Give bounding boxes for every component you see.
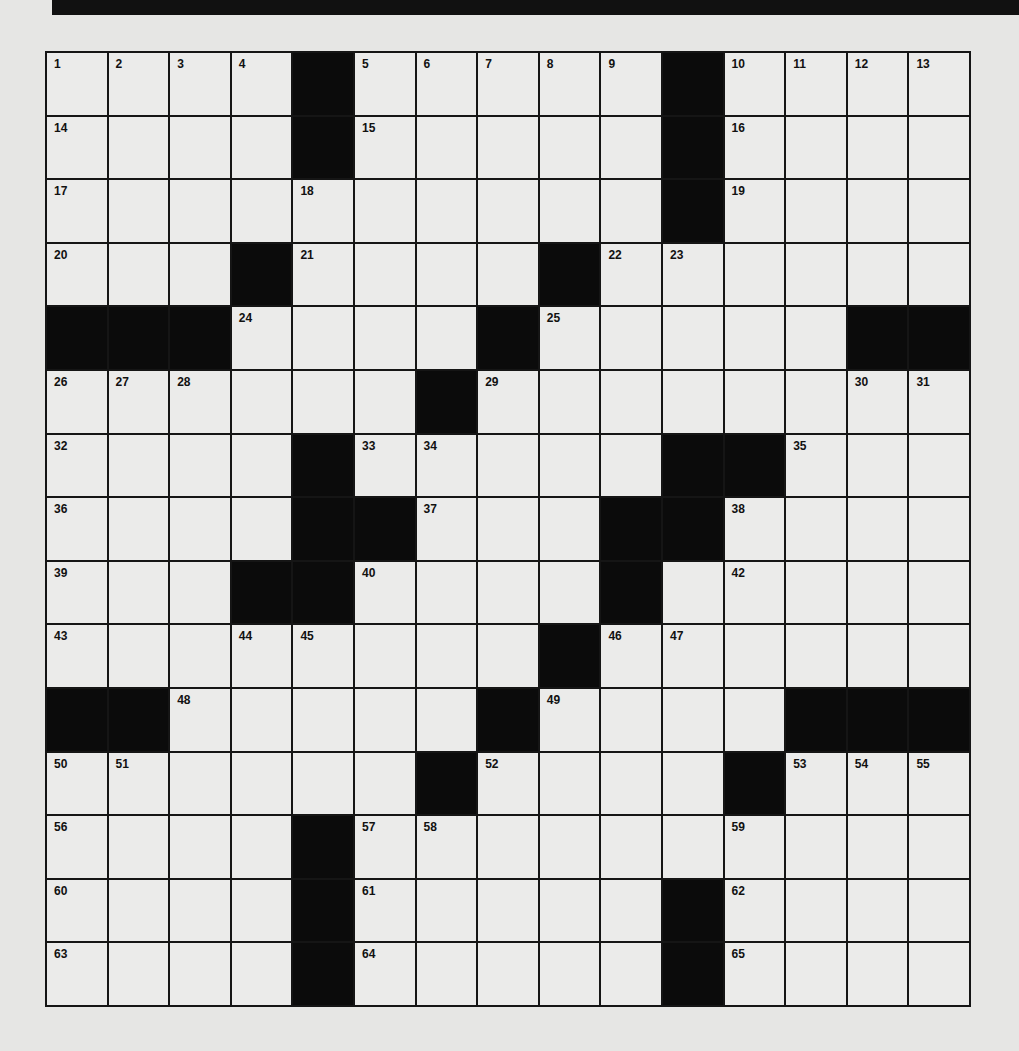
grid-cell[interactable] bbox=[170, 753, 230, 815]
grid-cell[interactable] bbox=[786, 498, 846, 560]
grid-cell[interactable] bbox=[293, 371, 353, 433]
grid-cell[interactable] bbox=[109, 117, 169, 179]
grid-cell[interactable] bbox=[848, 816, 908, 878]
grid-cell[interactable] bbox=[109, 435, 169, 497]
grid-cell[interactable] bbox=[478, 943, 538, 1005]
grid-cell[interactable] bbox=[417, 625, 477, 687]
grid-cell[interactable]: 1 bbox=[47, 53, 107, 115]
grid-cell[interactable] bbox=[786, 117, 846, 179]
grid-cell[interactable]: 34 bbox=[417, 435, 477, 497]
grid-cell[interactable] bbox=[232, 435, 292, 497]
grid-cell[interactable] bbox=[786, 562, 846, 624]
grid-cell[interactable] bbox=[540, 562, 600, 624]
grid-cell[interactable]: 54 bbox=[848, 753, 908, 815]
grid-cell[interactable] bbox=[417, 307, 477, 369]
grid-cell[interactable] bbox=[848, 180, 908, 242]
grid-cell[interactable]: 24 bbox=[232, 307, 292, 369]
grid-cell[interactable] bbox=[109, 816, 169, 878]
grid-cell[interactable] bbox=[848, 625, 908, 687]
grid-cell[interactable] bbox=[417, 689, 477, 751]
grid-cell[interactable]: 18 bbox=[293, 180, 353, 242]
grid-cell[interactable] bbox=[293, 689, 353, 751]
grid-cell[interactable] bbox=[170, 117, 230, 179]
grid-cell[interactable] bbox=[909, 880, 969, 942]
grid-cell[interactable] bbox=[725, 625, 785, 687]
grid-cell[interactable] bbox=[909, 625, 969, 687]
grid-cell[interactable]: 64 bbox=[355, 943, 415, 1005]
grid-cell[interactable] bbox=[478, 498, 538, 560]
grid-cell[interactable]: 2 bbox=[109, 53, 169, 115]
grid-cell[interactable]: 9 bbox=[601, 53, 661, 115]
grid-cell[interactable] bbox=[540, 498, 600, 560]
grid-cell[interactable]: 32 bbox=[47, 435, 107, 497]
grid-cell[interactable]: 31 bbox=[909, 371, 969, 433]
grid-cell[interactable] bbox=[232, 753, 292, 815]
grid-cell[interactable]: 46 bbox=[601, 625, 661, 687]
grid-cell[interactable] bbox=[109, 562, 169, 624]
grid-cell[interactable]: 62 bbox=[725, 880, 785, 942]
grid-cell[interactable]: 28 bbox=[170, 371, 230, 433]
grid-cell[interactable] bbox=[170, 435, 230, 497]
grid-cell[interactable]: 36 bbox=[47, 498, 107, 560]
grid-cell[interactable]: 42 bbox=[725, 562, 785, 624]
grid-cell[interactable] bbox=[848, 498, 908, 560]
grid-cell[interactable] bbox=[109, 625, 169, 687]
grid-cell[interactable]: 5 bbox=[355, 53, 415, 115]
grid-cell[interactable] bbox=[540, 880, 600, 942]
grid-cell[interactable] bbox=[232, 117, 292, 179]
grid-cell[interactable] bbox=[170, 625, 230, 687]
grid-cell[interactable] bbox=[663, 307, 723, 369]
grid-cell[interactable]: 17 bbox=[47, 180, 107, 242]
grid-cell[interactable] bbox=[725, 689, 785, 751]
grid-cell[interactable] bbox=[170, 880, 230, 942]
grid-cell[interactable] bbox=[170, 943, 230, 1005]
grid-cell[interactable] bbox=[478, 435, 538, 497]
grid-cell[interactable] bbox=[601, 117, 661, 179]
grid-cell[interactable]: 58 bbox=[417, 816, 477, 878]
grid-cell[interactable]: 60 bbox=[47, 880, 107, 942]
grid-cell[interactable]: 13 bbox=[909, 53, 969, 115]
grid-cell[interactable] bbox=[355, 371, 415, 433]
grid-cell[interactable] bbox=[725, 244, 785, 306]
grid-cell[interactable] bbox=[478, 117, 538, 179]
grid-cell[interactable]: 35 bbox=[786, 435, 846, 497]
grid-cell[interactable]: 38 bbox=[725, 498, 785, 560]
grid-cell[interactable]: 44 bbox=[232, 625, 292, 687]
grid-cell[interactable] bbox=[540, 117, 600, 179]
grid-cell[interactable] bbox=[601, 689, 661, 751]
grid-cell[interactable] bbox=[786, 371, 846, 433]
grid-cell[interactable] bbox=[601, 816, 661, 878]
grid-cell[interactable]: 48 bbox=[170, 689, 230, 751]
grid-cell[interactable] bbox=[601, 180, 661, 242]
grid-cell[interactable] bbox=[540, 753, 600, 815]
grid-cell[interactable] bbox=[355, 625, 415, 687]
grid-cell[interactable] bbox=[109, 244, 169, 306]
grid-cell[interactable] bbox=[848, 943, 908, 1005]
grid-cell[interactable] bbox=[417, 117, 477, 179]
grid-cell[interactable]: 51 bbox=[109, 753, 169, 815]
grid-cell[interactable] bbox=[909, 244, 969, 306]
grid-cell[interactable] bbox=[663, 562, 723, 624]
grid-cell[interactable]: 6 bbox=[417, 53, 477, 115]
grid-cell[interactable] bbox=[786, 244, 846, 306]
grid-cell[interactable] bbox=[909, 180, 969, 242]
grid-cell[interactable] bbox=[909, 117, 969, 179]
grid-cell[interactable] bbox=[232, 943, 292, 1005]
grid-cell[interactable]: 16 bbox=[725, 117, 785, 179]
grid-cell[interactable] bbox=[355, 244, 415, 306]
grid-cell[interactable]: 59 bbox=[725, 816, 785, 878]
grid-cell[interactable] bbox=[663, 816, 723, 878]
grid-cell[interactable]: 27 bbox=[109, 371, 169, 433]
grid-cell[interactable] bbox=[848, 117, 908, 179]
grid-cell[interactable]: 15 bbox=[355, 117, 415, 179]
grid-cell[interactable]: 43 bbox=[47, 625, 107, 687]
grid-cell[interactable] bbox=[909, 943, 969, 1005]
grid-cell[interactable]: 39 bbox=[47, 562, 107, 624]
grid-cell[interactable] bbox=[355, 180, 415, 242]
grid-cell[interactable] bbox=[170, 180, 230, 242]
grid-cell[interactable]: 12 bbox=[848, 53, 908, 115]
grid-cell[interactable] bbox=[109, 498, 169, 560]
grid-cell[interactable] bbox=[170, 244, 230, 306]
grid-cell[interactable] bbox=[417, 880, 477, 942]
grid-cell[interactable]: 57 bbox=[355, 816, 415, 878]
